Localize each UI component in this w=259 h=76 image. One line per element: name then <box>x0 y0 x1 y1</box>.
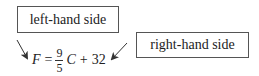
right-arrow-icon <box>112 43 127 59</box>
equation-rhs-variable: C <box>66 52 75 68</box>
fraction-numerator: 9 <box>55 47 63 61</box>
fahrenheit-equation: F = 9 5 C + 32 <box>32 46 106 74</box>
left-arrow-icon <box>17 40 27 58</box>
equation-fraction: 9 5 <box>55 47 63 74</box>
fraction-denominator: 5 <box>56 61 62 74</box>
equation-equals-sign: = <box>45 52 53 68</box>
equation-constant: 32 <box>92 52 106 68</box>
equation-lhs-variable: F <box>32 52 41 68</box>
equation-plus-sign: + <box>80 52 88 68</box>
